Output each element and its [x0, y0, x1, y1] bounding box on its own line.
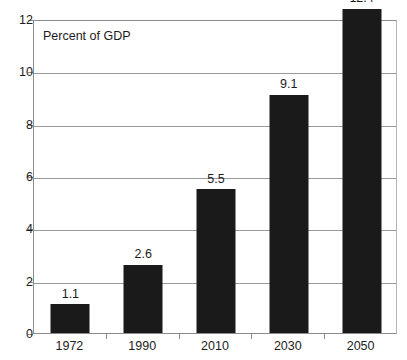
- y-tick-label: 0: [9, 328, 33, 341]
- y-tick-label: 6: [9, 171, 33, 184]
- bar-group: 2.6: [107, 21, 180, 333]
- x-tick-label: 2010: [201, 340, 229, 353]
- bar: [269, 95, 308, 333]
- y-axis: 024681012: [0, 0, 33, 360]
- bar-value-label: 1.1: [62, 288, 79, 301]
- bar-group: 9.1: [252, 21, 325, 333]
- bar-group: 1.1: [34, 21, 107, 333]
- bar: [124, 265, 163, 333]
- bar: [196, 189, 235, 333]
- x-tick-label: 1972: [55, 340, 83, 353]
- bar-chart-figure: 024681012 Percent of GDP 1.12.65.59.112.…: [0, 0, 407, 360]
- y-tick-label: 8: [9, 118, 33, 131]
- bar-group: 12.4: [325, 21, 398, 333]
- bar: [342, 9, 381, 333]
- plot-area: Percent of GDP 1.12.65.59.112.4: [33, 20, 397, 334]
- y-tick-label: 2: [9, 275, 33, 288]
- bar-value-label: 5.5: [207, 173, 224, 186]
- bar-value-label: 2.6: [134, 248, 151, 261]
- x-tick-mark: [106, 334, 107, 339]
- x-tick-label: 2030: [274, 340, 302, 353]
- x-tick-label: 1990: [128, 340, 156, 353]
- bar: [51, 304, 90, 333]
- bar-group: 5.5: [180, 21, 253, 333]
- y-tick-label: 4: [9, 223, 33, 236]
- x-tick-label: 2050: [347, 340, 375, 353]
- bar-value-label: 12.4: [349, 0, 373, 5]
- x-tick-mark: [179, 334, 180, 339]
- bar-value-label: 9.1: [280, 78, 297, 91]
- y-tick-label: 10: [9, 66, 33, 79]
- y-tick-label: 12: [9, 14, 33, 27]
- x-tick-mark: [251, 334, 252, 339]
- x-tick-mark: [324, 334, 325, 339]
